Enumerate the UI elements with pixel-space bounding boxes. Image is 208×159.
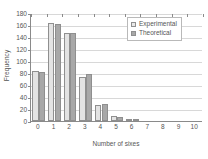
bar bbox=[95, 105, 101, 121]
bar-chart: Frequency 020406080100120140160180 01234… bbox=[0, 0, 208, 159]
x-axis-tick-label: 10 bbox=[191, 124, 198, 131]
legend-label-experimental: Experimental bbox=[139, 21, 177, 28]
x-axis-tick-label: 2 bbox=[67, 124, 71, 131]
bar bbox=[39, 72, 45, 121]
bar bbox=[55, 24, 61, 121]
bar bbox=[102, 104, 108, 121]
x-axis-tickmark bbox=[109, 14, 110, 17]
y-axis-tick-label: 100 bbox=[16, 59, 27, 66]
y-axis-tick-label: 80 bbox=[20, 71, 27, 78]
y-axis-tick-label: 180 bbox=[16, 11, 27, 18]
legend-label-theoretical: Theoretical bbox=[139, 30, 171, 37]
x-axis-tickmark bbox=[47, 14, 48, 17]
x-axis-title: Number of sixes bbox=[30, 140, 202, 147]
bar-group bbox=[79, 14, 92, 121]
x-axis-tick-label: 4 bbox=[99, 124, 103, 131]
x-axis-tickmark bbox=[62, 14, 63, 17]
x-axis-tick-label: 6 bbox=[130, 124, 134, 131]
bar-group bbox=[189, 14, 202, 121]
bar bbox=[117, 117, 123, 121]
x-axis-tickmark bbox=[125, 14, 126, 17]
bar bbox=[48, 23, 54, 121]
x-axis-tick-label: 7 bbox=[145, 124, 149, 131]
chart-legend: Experimental Theoretical bbox=[127, 17, 182, 41]
bar-group bbox=[32, 14, 45, 121]
x-axis-tickmark bbox=[31, 14, 32, 17]
y-axis-tick-label: 20 bbox=[20, 107, 27, 114]
y-axis-tick-label: 120 bbox=[16, 47, 27, 54]
y-axis-tick-label: 40 bbox=[20, 95, 27, 102]
x-axis-tickmark bbox=[78, 14, 79, 17]
y-axis-tick-label: 160 bbox=[16, 23, 27, 30]
x-axis-tickmark bbox=[94, 14, 95, 17]
bar bbox=[70, 33, 76, 121]
y-axis-tick-label: 140 bbox=[16, 35, 27, 42]
bar-group bbox=[48, 14, 61, 121]
x-axis-tickmark bbox=[203, 14, 204, 17]
x-axis-tick-label: 9 bbox=[177, 124, 181, 131]
x-axis-tick-label: 8 bbox=[161, 124, 165, 131]
x-axis-tick-label: 3 bbox=[83, 124, 87, 131]
legend-item-experimental: Experimental bbox=[131, 20, 177, 29]
bar bbox=[86, 74, 92, 121]
y-axis-tick-label: 60 bbox=[20, 83, 27, 90]
legend-item-theoretical: Theoretical bbox=[131, 29, 177, 38]
y-axis-tick-label: 0 bbox=[23, 119, 27, 126]
bar-group bbox=[95, 14, 108, 121]
y-axis-title-label: Frequency bbox=[4, 49, 11, 81]
bar bbox=[32, 71, 38, 121]
x-axis-tick-label: 0 bbox=[36, 124, 40, 131]
bar bbox=[64, 33, 70, 121]
x-axis-tick-label: 1 bbox=[52, 124, 56, 131]
bar bbox=[79, 77, 85, 121]
x-axis-tickmark bbox=[187, 14, 188, 17]
bar-group bbox=[111, 14, 124, 121]
bar bbox=[133, 119, 139, 121]
legend-swatch-theoretical-icon bbox=[131, 31, 136, 36]
bar bbox=[111, 116, 117, 121]
x-axis-tick-labels: 012345678910 bbox=[30, 124, 202, 134]
y-axis-tick-labels: 020406080100120140160180 bbox=[12, 14, 29, 122]
y-axis-tickmark bbox=[28, 122, 31, 123]
legend-swatch-experimental-icon bbox=[131, 22, 136, 27]
x-axis-tick-label: 5 bbox=[114, 124, 118, 131]
bar bbox=[126, 119, 132, 121]
bar-group bbox=[64, 14, 77, 121]
